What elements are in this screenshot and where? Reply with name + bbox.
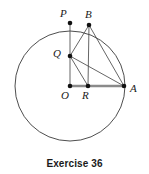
segment-Q-B [70, 25, 89, 56]
point-R [86, 84, 91, 89]
segment-Q-R [70, 56, 88, 86]
label-A: A [130, 83, 137, 94]
label-P: P [60, 8, 67, 19]
segment-Q-A [70, 56, 124, 86]
segment-B-A [89, 25, 124, 86]
label-B: B [85, 9, 92, 20]
figure-caption: Exercise 36 [46, 158, 102, 169]
segments-layer [70, 23, 124, 86]
caption-bar: Exercise 36 [0, 152, 149, 174]
label-O: O [61, 90, 69, 101]
points-layer [68, 21, 127, 89]
geometry-figure: PBQORA Exercise 36 [0, 0, 149, 174]
point-B [87, 23, 92, 28]
point-O [68, 84, 73, 89]
label-R: R [82, 90, 89, 101]
point-P [68, 21, 73, 26]
label-Q: Q [53, 48, 61, 59]
geometry-diagram [0, 0, 149, 152]
point-Q [68, 54, 73, 59]
point-A [122, 84, 127, 89]
